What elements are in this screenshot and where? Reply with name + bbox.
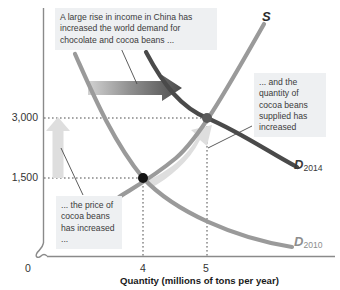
x-axis-tick-5: 5	[196, 262, 216, 274]
demand-2010-label-subscript: 2010	[303, 240, 322, 250]
y-axis-tick-3000: 3,000	[2, 111, 38, 123]
callout-price-increase: ... the price of cocoa beans has increas…	[56, 196, 122, 249]
supply-demand-figure: A large rise in income in China has incr…	[0, 0, 340, 290]
leader-line-demand-shift	[120, 46, 137, 84]
price-rise-arrow	[46, 117, 70, 178]
x-axis-tick-4: 4	[133, 262, 153, 274]
demand-2014-curve-label: D2014	[294, 157, 323, 172]
callout-quantity-supplied: ... and the quantity of cocoa beans supp…	[254, 73, 326, 137]
supply-curve-label: S	[262, 9, 271, 24]
new-equilibrium-point	[202, 113, 212, 123]
origin-label: 0	[18, 262, 38, 274]
demand-2014-label-base: D	[294, 157, 303, 172]
callout-demand-shift: A large rise in income in China has incr…	[55, 8, 217, 50]
y-axis-tick-1500: 1,500	[2, 171, 38, 183]
axis-break-squiggle	[36, 243, 47, 257]
demand-2010-curve-label: D2010	[294, 234, 323, 249]
demand-2010-label-base: D	[294, 234, 303, 249]
x-axis-title: Quantity (millions of tons per year)	[120, 275, 279, 286]
demand-2014-label-subscript: 2014	[303, 163, 322, 173]
initial-equilibrium-point	[138, 173, 148, 183]
leader-line-price-increase	[61, 148, 83, 195]
